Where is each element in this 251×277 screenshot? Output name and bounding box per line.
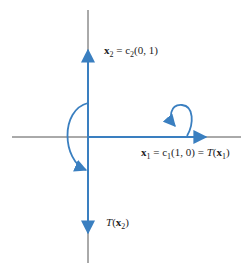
label-x2: x2 = c2(0, 1): [104, 45, 158, 59]
reflection-diagram: [0, 0, 251, 277]
label-tx2: T(x2): [106, 217, 129, 231]
fixed-loop-arrow: [171, 105, 192, 136]
label-x1: x1 = c1(1, 0) = T(x1): [141, 147, 230, 161]
